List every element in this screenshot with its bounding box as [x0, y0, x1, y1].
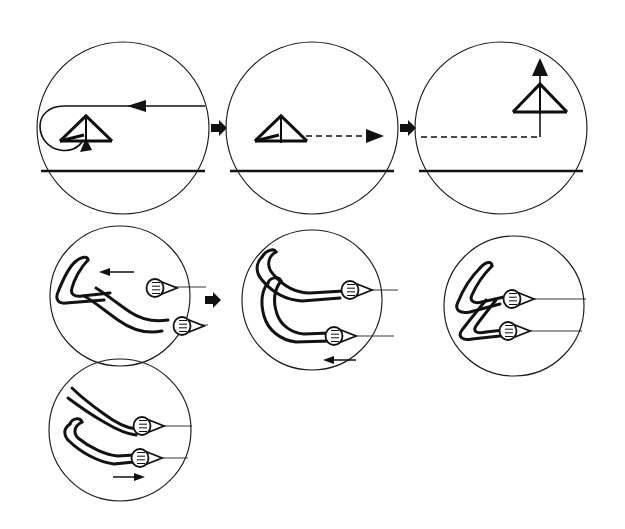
panel-climb[interactable] [415, 42, 587, 214]
figure-root [0, 0, 625, 529]
motion-arrow-right-icon [113, 473, 145, 481]
panel-grip-pull-in[interactable] [50, 226, 208, 366]
hand-grip-upper-icon [147, 279, 178, 297]
motion-arrow-left-icon [323, 356, 356, 364]
hang-glider-icon [513, 84, 567, 114]
flight-path-arrowhead-right [366, 129, 384, 143]
hang-glider-icon [60, 116, 112, 143]
panel-circle-outline [415, 42, 587, 214]
arm-upper-outer [457, 268, 500, 313]
connector-arrow-icon [205, 292, 221, 308]
panel-circle-outline [226, 42, 398, 214]
panel-circle-outline [37, 42, 209, 214]
connector-arrow-icon [211, 120, 227, 136]
panel-approach-turn[interactable] [37, 42, 209, 214]
hand-grip-lower-icon [174, 317, 205, 335]
hand-grip-lower-icon [500, 322, 531, 340]
flight-path-turn [40, 106, 205, 151]
motion-arrow-left-icon [99, 268, 134, 276]
panel-grip-neutral[interactable] [242, 230, 398, 370]
row-hand-positions-continued [49, 359, 192, 501]
hand-grip-upper-icon [504, 290, 535, 308]
hand-grip-upper-icon [342, 281, 373, 299]
arm-upper-inner [71, 260, 110, 296]
arm-upper-inner [269, 252, 344, 293]
diagram-canvas [0, 0, 625, 529]
row-hand-positions [50, 226, 586, 376]
flight-path-arrowhead-left [127, 100, 146, 112]
hand-grip-upper-icon [134, 417, 165, 435]
hand-grip-lower-icon [326, 327, 357, 345]
hang-glider-icon [255, 116, 307, 143]
connector-arrow-icon [400, 120, 416, 136]
arm-lower-inner [275, 281, 330, 334]
panel-grip-push-out[interactable] [49, 359, 192, 501]
panel-circle-outline [50, 226, 190, 366]
panel-level-run[interactable] [226, 42, 398, 214]
arm-upper-inner [68, 398, 136, 435]
hand-grip-lower-icon [132, 449, 163, 467]
row-flight-sequence [37, 42, 587, 214]
panel-grip-tucked[interactable] [444, 236, 586, 376]
flight-path-arrowhead-up [532, 58, 548, 76]
